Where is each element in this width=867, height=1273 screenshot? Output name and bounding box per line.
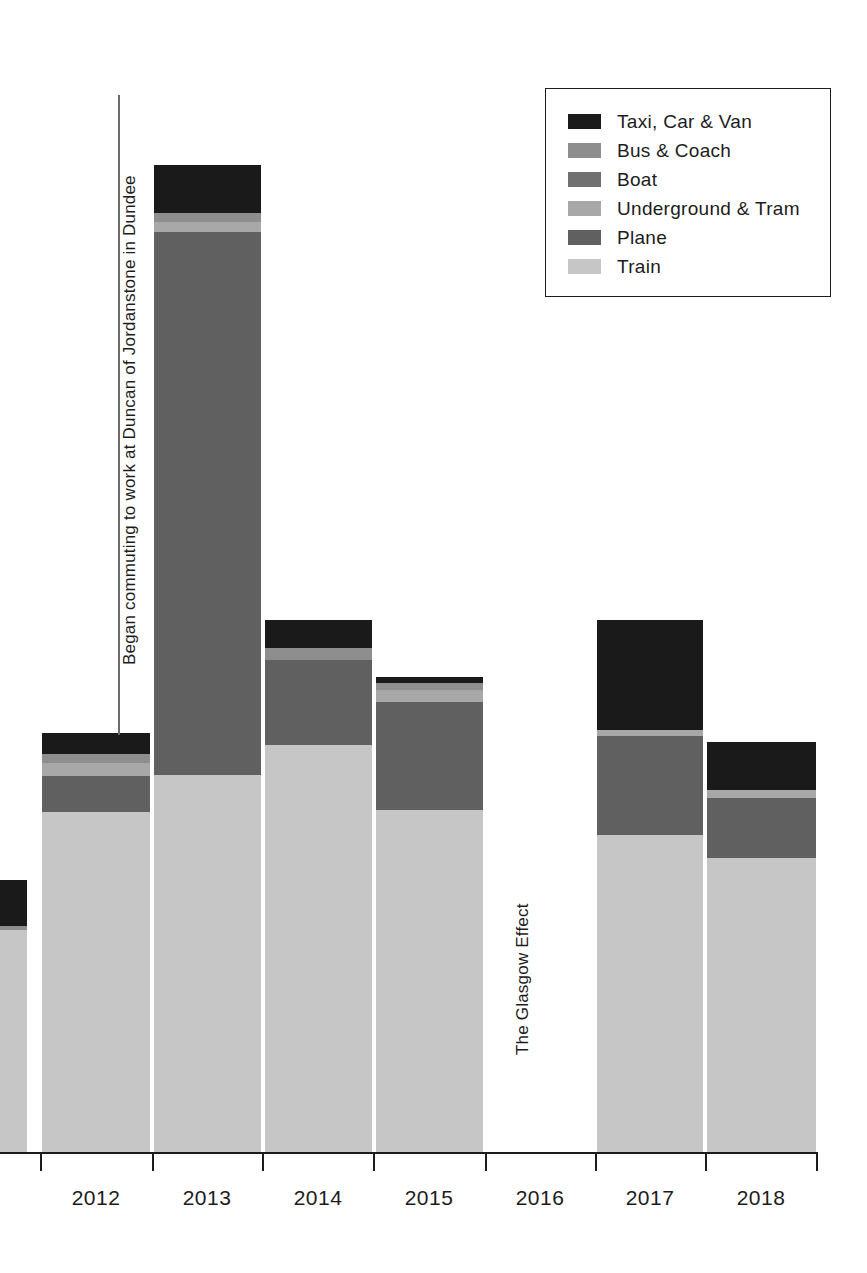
segment-bus-coach [707, 790, 816, 798]
segment-taxi-car-van [265, 620, 372, 648]
segment-train [707, 858, 816, 1153]
segment-taxi-car-van [0, 880, 27, 926]
segment-taxi-car-van [707, 742, 816, 790]
legend-swatch-taxi-car-van [568, 114, 601, 129]
segment-underground-tram [42, 763, 150, 776]
segment-underground-tram [154, 222, 261, 232]
x-axis-label-2016: 2016 [516, 1186, 565, 1210]
x-axis-line [0, 1152, 818, 1154]
x-axis-label-2012: 2012 [72, 1186, 121, 1210]
segment-train [0, 930, 27, 1153]
x-axis-label-2014: 2014 [294, 1186, 343, 1210]
legend-item-taxi-car-van[interactable]: Taxi, Car & Van [568, 107, 810, 136]
legend-item-train[interactable]: Train [568, 252, 810, 281]
legend-label-plane: Plane [617, 227, 667, 249]
segment-bus-coach [376, 683, 483, 690]
legend-item-bus-coach[interactable]: Bus & Coach [568, 136, 810, 165]
bar-2011[interactable] [0, 880, 27, 1153]
legend-label-boat: Boat [617, 169, 657, 191]
segment-train [42, 812, 150, 1153]
legend-swatch-boat [568, 172, 601, 187]
bar-2018[interactable] [707, 742, 816, 1153]
segment-bus-coach [265, 648, 372, 660]
bar-2015[interactable] [376, 677, 483, 1153]
legend-item-underground-tram[interactable]: Underground & Tram [568, 194, 810, 223]
segment-train [154, 775, 261, 1153]
segment-bus-coach [154, 213, 261, 222]
bar-2014[interactable] [265, 620, 372, 1153]
annotation-label-dundee: Began commuting to work at Duncan of Jor… [120, 175, 140, 665]
legend-swatch-underground-tram [568, 201, 601, 216]
segment-train [265, 745, 372, 1153]
legend-swatch-plane [568, 230, 601, 245]
segment-taxi-car-van [154, 165, 261, 213]
x-axis-label-2017: 2017 [626, 1186, 675, 1210]
x-axis-tick-2012-left [40, 1153, 42, 1171]
segment-plane [376, 702, 483, 810]
segment-plane [154, 232, 261, 775]
segment-plane [42, 776, 150, 812]
segment-underground-tram [376, 690, 483, 702]
legend-item-boat[interactable]: Boat [568, 165, 810, 194]
x-axis-label-2015: 2015 [405, 1186, 454, 1210]
segment-taxi-car-van [42, 733, 150, 754]
segment-train [376, 810, 483, 1153]
segment-plane [265, 660, 372, 745]
x-axis-label-2013: 2013 [183, 1186, 232, 1210]
legend: Taxi, Car & Van Bus & Coach Boat Undergr… [545, 88, 831, 297]
stacked-bar-chart: Began commuting to work at Duncan of Jor… [0, 0, 867, 1273]
x-axis-label-2018: 2018 [737, 1186, 786, 1210]
legend-label-train: Train [617, 256, 661, 278]
x-axis-tick-2016-left [485, 1153, 487, 1171]
segment-plane [597, 736, 703, 835]
bar-2013[interactable] [154, 165, 261, 1153]
segment-taxi-car-van [597, 620, 703, 730]
x-axis-tick-2013-left [152, 1153, 154, 1171]
x-axis-tick-2015-left [373, 1153, 375, 1171]
legend-label-underground-tram: Underground & Tram [617, 198, 800, 220]
bar-2017[interactable] [597, 620, 703, 1153]
x-axis-tick-2017-left [595, 1153, 597, 1171]
legend-swatch-train [568, 259, 601, 274]
segment-bus-coach [42, 754, 150, 763]
x-axis-tick-2014-left [262, 1153, 264, 1171]
segment-train [597, 835, 703, 1153]
x-axis-tick-2018-left [705, 1153, 707, 1171]
legend-label-taxi-car-van: Taxi, Car & Van [617, 111, 752, 133]
legend-item-plane[interactable]: Plane [568, 223, 810, 252]
x-axis-tick-end [816, 1153, 818, 1171]
legend-swatch-bus-coach [568, 143, 601, 158]
bar-2012[interactable] [42, 733, 150, 1153]
segment-plane [707, 798, 816, 858]
legend-label-bus-coach: Bus & Coach [617, 140, 731, 162]
annotation-label-glasgow-effect: The Glasgow Effect [513, 903, 533, 1055]
